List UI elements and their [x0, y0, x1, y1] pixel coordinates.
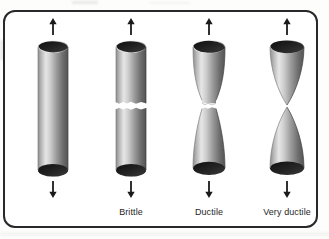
- specimen-caption: Brittle: [119, 207, 143, 217]
- specimen-very-ductile: Very ductile: [249, 12, 325, 226]
- scan-artifact: [72, 1, 98, 4]
- specimen-brittle: Brittle: [93, 12, 169, 226]
- arrow-down-icon: [126, 181, 137, 198]
- specimen-unfractured: [15, 12, 91, 226]
- arrow-down-icon: [48, 181, 59, 198]
- cylinder-ductile-necked: [171, 38, 247, 179]
- scan-artifact: [150, 2, 190, 4]
- specimen-row: Brittle: [5, 12, 316, 226]
- arrow-down-icon: [282, 181, 293, 198]
- arrow-up-icon: [126, 18, 137, 35]
- arrow-up-icon: [48, 18, 59, 35]
- specimen-caption: Very ductile: [263, 207, 311, 217]
- arrow-up-icon: [282, 18, 293, 35]
- scan-artifact: [0, 232, 329, 236]
- specimen-ductile: Ductile: [171, 12, 247, 226]
- cylinder-very-ductile-pointed: [249, 38, 325, 179]
- cylinder-unfractured: [15, 38, 91, 179]
- arrow-up-icon: [204, 18, 215, 35]
- specimen-caption: Ductile: [195, 207, 223, 217]
- cylinder-brittle-fractured: [93, 38, 169, 179]
- figure-frame: Brittle: [3, 10, 318, 228]
- arrow-down-icon: [204, 181, 215, 198]
